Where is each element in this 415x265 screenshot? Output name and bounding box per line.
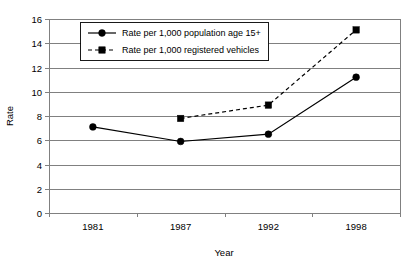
legend-marker-square	[99, 47, 105, 53]
data-point-circle	[177, 138, 184, 145]
line-chart: 0246810121416 1981198719921998 Rate per …	[0, 0, 415, 265]
chart-legend: Rate per 1,000 population age 15+Rate pe…	[81, 23, 269, 61]
x-tick-label: 1998	[346, 221, 367, 232]
y-tick-label: 6	[37, 135, 42, 146]
data-point-square	[353, 27, 359, 33]
y-axis-title: Rate	[4, 106, 15, 126]
y-tick-label: 14	[31, 38, 42, 49]
y-tick-label: 16	[31, 14, 42, 25]
y-tick-label: 4	[37, 160, 42, 171]
data-point-circle	[353, 74, 360, 81]
y-tick-label: 0	[37, 208, 42, 219]
legend-label: Rate per 1,000 registered vehicles	[122, 45, 260, 55]
x-tick-label: 1987	[170, 221, 191, 232]
x-axis-title: Year	[214, 247, 233, 258]
data-point-circle	[265, 131, 272, 138]
legend-label: Rate per 1,000 population age 15+	[122, 28, 261, 38]
y-tick-label: 10	[31, 87, 42, 98]
y-tick-label: 12	[31, 63, 42, 74]
data-point-square	[265, 102, 271, 108]
chart-canvas: 0246810121416 1981198719921998 Rate per …	[0, 0, 415, 265]
data-point-circle	[89, 124, 96, 131]
legend-marker-circle	[99, 30, 106, 37]
x-tick-label: 1992	[258, 221, 279, 232]
y-tick-label: 8	[37, 111, 42, 122]
data-point-square	[177, 115, 183, 121]
x-tick-label: 1981	[82, 221, 103, 232]
y-tick-label: 2	[37, 184, 42, 195]
